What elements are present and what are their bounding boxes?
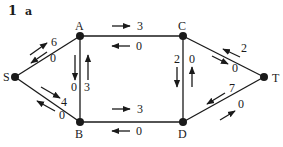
flow-label-backward-C-T: 2 [241,41,247,55]
flow-label-backward-S-A: 0 [50,51,56,65]
node-D [179,118,187,126]
network-flow-diagram: 1 a 6040303003200207 SABCDT [0,0,283,147]
flow-arrows: 6040303003200207 [30,19,247,138]
flow-label-backward-A-B: 3 [84,80,90,94]
flow-label-forward-S-B: 4 [61,95,67,109]
arrow-backward-D-T [207,93,225,104]
flow-label-backward-B-D: 0 [136,124,142,138]
edge-S-A [15,36,80,77]
flow-label-forward-A-C: 3 [137,19,143,33]
node-A [76,32,84,40]
node-label-S: S [3,70,10,84]
node-label-B: B [75,127,83,141]
flow-label-forward-A-B: 0 [71,80,77,94]
flow-label-forward-S-A: 6 [51,35,57,49]
flow-label-backward-A-C: 0 [136,39,142,53]
flow-label-forward-C-D: 2 [174,52,180,66]
flow-label-forward-B-D: 3 [137,102,143,116]
flow-label-backward-C-D: 0 [189,52,195,66]
edge-C-T [183,36,264,77]
node-C [179,32,187,40]
edge-D-T [183,77,264,122]
node-label-A: A [75,19,84,33]
node-B [76,118,84,126]
arrow-forward-D-T [220,111,235,120]
node-T [260,73,268,81]
arrow-backward-C-T [223,49,240,57]
figure-part: a [25,5,32,18]
flow-label-backward-S-B: 0 [59,108,65,122]
flow-label-forward-D-T: 0 [238,97,244,111]
flow-label-backward-D-T: 7 [229,81,235,95]
flow-label-forward-C-T: 0 [232,61,238,75]
nodes: SABCDT [3,19,280,141]
figure-number: 1 [8,3,17,18]
node-S [11,73,19,81]
node-label-C: C [178,19,186,33]
node-label-T: T [272,71,280,85]
node-label-D: D [178,127,187,141]
